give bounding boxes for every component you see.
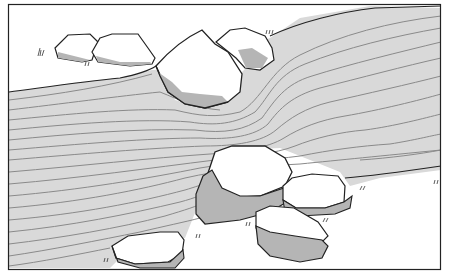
rock-top-left-2 bbox=[92, 34, 155, 66]
stream-rocks-illustration bbox=[0, 0, 451, 279]
rock-top-left-1 bbox=[55, 34, 98, 62]
